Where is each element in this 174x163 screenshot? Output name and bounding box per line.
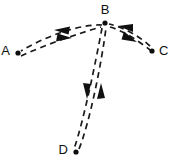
arrow-toward-b-from-d-icon	[97, 83, 105, 99]
arrow-toward-c-icon	[122, 32, 138, 43]
edge-b-to-d	[74, 28, 102, 149]
arrow-toward-b-from-a-icon	[56, 34, 72, 42]
node-dot-c[interactable]	[149, 48, 154, 53]
diagram-svg: A B C D	[0, 0, 174, 163]
edge-d-to-b	[79, 28, 106, 149]
node-dot-a[interactable]	[15, 50, 20, 55]
diagram-canvas: A B C D	[0, 0, 174, 163]
node-dot-b[interactable]	[102, 20, 107, 25]
node-label-c: C	[159, 43, 168, 58]
node-dot-d[interactable]	[73, 149, 78, 154]
node-label-a: A	[1, 43, 10, 58]
node-label-b: B	[101, 2, 110, 17]
node-label-d: D	[59, 142, 68, 157]
